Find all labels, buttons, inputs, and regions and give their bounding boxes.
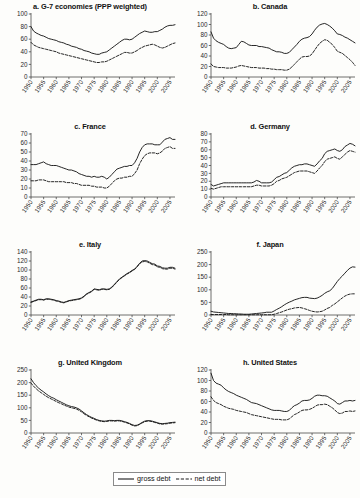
- svg-text:2000: 2000: [147, 78, 161, 94]
- svg-text:60: 60: [21, 139, 29, 146]
- svg-text:2000: 2000: [147, 198, 161, 214]
- svg-text:2000: 2000: [147, 434, 161, 450]
- panel-d: d. Germany 01020304050607080195019551960…: [180, 120, 360, 238]
- svg-text:40: 40: [201, 162, 209, 169]
- svg-text:60: 60: [201, 398, 209, 405]
- svg-text:60: 60: [21, 284, 29, 291]
- svg-text:1970: 1970: [251, 78, 265, 94]
- svg-text:1990: 1990: [121, 316, 135, 332]
- svg-text:1985: 1985: [109, 316, 123, 332]
- svg-text:1975: 1975: [263, 198, 277, 214]
- svg-text:100: 100: [197, 286, 208, 293]
- svg-text:1960: 1960: [225, 316, 239, 332]
- plot-e: 0204060801001201401950195519601965197019…: [0, 238, 180, 356]
- legend-item-gross-debt: gross debt: [118, 474, 171, 483]
- svg-text:20: 20: [201, 419, 209, 426]
- panel-c: c. France 010203040506070195019551960196…: [0, 120, 180, 238]
- svg-text:200: 200: [197, 261, 208, 268]
- svg-text:20: 20: [201, 177, 209, 184]
- legend-line-dashed-icon: [176, 476, 192, 482]
- svg-text:1990: 1990: [121, 78, 135, 94]
- svg-text:1975: 1975: [263, 434, 277, 450]
- svg-text:120: 120: [17, 257, 28, 264]
- plot-a: 0204060801001950195519601965197019751980…: [0, 0, 180, 118]
- svg-text:1995: 1995: [314, 316, 328, 332]
- svg-text:1955: 1955: [213, 78, 227, 94]
- plot-c: 0102030405060701950195519601965197019751…: [0, 120, 180, 238]
- svg-text:1960: 1960: [225, 198, 239, 214]
- panel-h: h. United States 02040608010012019501955…: [180, 356, 360, 474]
- svg-text:1985: 1985: [289, 316, 303, 332]
- svg-text:40: 40: [21, 157, 29, 164]
- svg-text:1965: 1965: [238, 434, 252, 450]
- svg-text:1950: 1950: [200, 316, 214, 332]
- svg-text:1980: 1980: [96, 316, 110, 332]
- svg-text:10: 10: [201, 185, 209, 192]
- svg-text:140: 140: [17, 248, 28, 255]
- svg-text:20: 20: [201, 63, 209, 70]
- svg-text:1960: 1960: [225, 434, 239, 450]
- svg-text:1975: 1975: [263, 78, 277, 94]
- plot-f: 0501001502002501950195519601965197019751…: [180, 238, 360, 356]
- svg-text:80: 80: [201, 31, 209, 38]
- svg-text:1980: 1980: [276, 78, 290, 94]
- svg-text:60: 60: [21, 35, 29, 42]
- svg-text:100: 100: [197, 21, 208, 28]
- panel-g: g. United Kingdom 0501001502002501950195…: [0, 356, 180, 474]
- chart-legend: gross debt net debt: [113, 472, 226, 486]
- svg-text:40: 40: [21, 48, 29, 55]
- svg-text:1980: 1980: [276, 198, 290, 214]
- svg-text:60: 60: [201, 146, 209, 153]
- svg-text:2005: 2005: [159, 198, 173, 214]
- svg-text:1955: 1955: [33, 198, 47, 214]
- svg-text:40: 40: [201, 408, 209, 415]
- svg-text:1965: 1965: [58, 316, 72, 332]
- svg-text:1985: 1985: [289, 434, 303, 450]
- svg-text:1990: 1990: [121, 434, 135, 450]
- svg-text:1950: 1950: [200, 434, 214, 450]
- svg-text:100: 100: [17, 10, 28, 17]
- legend-label-net-debt: net debt: [195, 474, 221, 483]
- svg-text:1970: 1970: [71, 78, 85, 94]
- svg-text:2005: 2005: [339, 316, 353, 332]
- svg-text:2005: 2005: [159, 434, 173, 450]
- svg-text:20: 20: [21, 302, 29, 309]
- svg-text:1985: 1985: [109, 198, 123, 214]
- svg-text:250: 250: [17, 366, 28, 373]
- svg-text:1990: 1990: [301, 198, 315, 214]
- svg-text:80: 80: [201, 130, 209, 137]
- svg-text:1980: 1980: [96, 78, 110, 94]
- svg-text:1950: 1950: [20, 316, 34, 332]
- svg-text:2005: 2005: [159, 78, 173, 94]
- svg-text:60: 60: [201, 42, 209, 49]
- svg-text:1955: 1955: [33, 316, 47, 332]
- panel-f: f. Japan 0501001502002501950195519601965…: [180, 238, 360, 356]
- svg-text:1975: 1975: [263, 316, 277, 332]
- plot-d: 0102030405060708019501955196019651970197…: [180, 120, 360, 238]
- svg-text:1950: 1950: [20, 434, 34, 450]
- svg-text:50: 50: [21, 148, 29, 155]
- svg-text:1970: 1970: [251, 434, 265, 450]
- svg-text:1985: 1985: [289, 198, 303, 214]
- svg-text:10: 10: [21, 184, 29, 191]
- svg-text:50: 50: [21, 417, 29, 424]
- plot-h: 0204060801001201950195519601965197019751…: [180, 356, 360, 474]
- svg-text:70: 70: [201, 138, 209, 145]
- svg-text:80: 80: [21, 275, 29, 282]
- svg-text:100: 100: [17, 404, 28, 411]
- svg-text:1965: 1965: [238, 78, 252, 94]
- svg-text:1970: 1970: [251, 198, 265, 214]
- svg-text:70: 70: [21, 130, 29, 137]
- svg-text:1955: 1955: [213, 434, 227, 450]
- svg-text:2000: 2000: [327, 316, 341, 332]
- svg-text:1995: 1995: [134, 434, 148, 450]
- figure-debt-panels: a. G-7 economies (PPP weighted) 02040608…: [0, 0, 360, 498]
- svg-text:120: 120: [197, 10, 208, 17]
- svg-text:150: 150: [197, 273, 208, 280]
- svg-text:20: 20: [21, 175, 29, 182]
- svg-text:2005: 2005: [159, 316, 173, 332]
- svg-text:2000: 2000: [327, 78, 341, 94]
- svg-text:80: 80: [21, 23, 29, 30]
- svg-text:1995: 1995: [314, 434, 328, 450]
- svg-text:120: 120: [197, 366, 208, 373]
